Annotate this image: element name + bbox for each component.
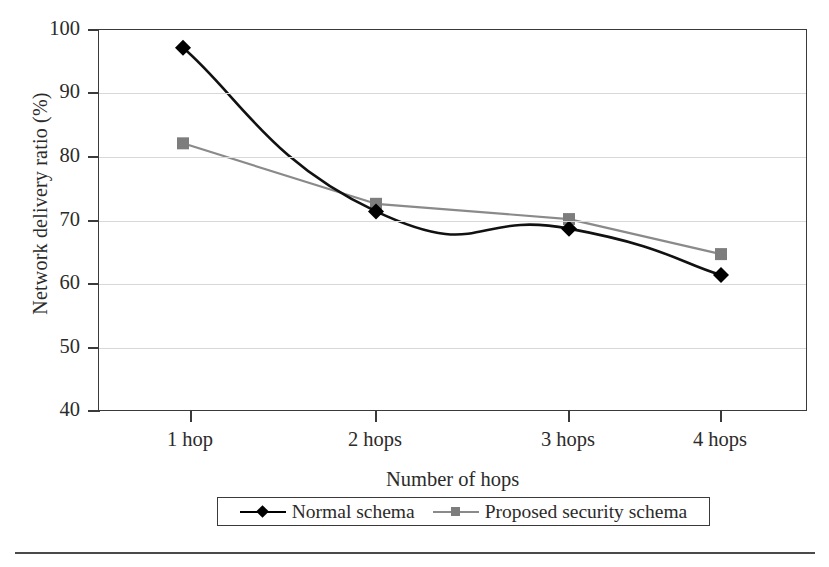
footer-rule bbox=[15, 552, 815, 554]
square-marker-icon bbox=[715, 248, 727, 260]
plot-area bbox=[98, 29, 807, 411]
x-tick-label-4-hops: 4 hops bbox=[660, 428, 780, 451]
y-tick-label-80: 80 bbox=[28, 145, 80, 166]
legend-label-normal-schema: Normal schema bbox=[292, 501, 415, 523]
x-tick-mark bbox=[568, 411, 570, 422]
y-tick-label-100: 100 bbox=[28, 18, 80, 39]
gridline-60 bbox=[99, 284, 806, 285]
y-tick-label-70: 70 bbox=[28, 209, 80, 230]
diamond-marker-icon bbox=[240, 505, 286, 519]
legend-item-proposed-security-schema: Proposed security schema bbox=[433, 501, 688, 523]
legend-label-proposed-security-schema: Proposed security schema bbox=[485, 501, 688, 523]
x-tick-mark bbox=[375, 411, 377, 422]
y-tick-label-90: 90 bbox=[28, 81, 80, 102]
y-tick-label-40: 40 bbox=[28, 399, 80, 420]
series-normal-line bbox=[183, 48, 721, 275]
y-tick-label-50: 50 bbox=[28, 336, 80, 357]
square-marker-icon bbox=[433, 505, 479, 519]
diamond-marker-icon bbox=[713, 267, 729, 283]
series-proposed-security-schema bbox=[177, 137, 727, 260]
square-glyph-icon bbox=[451, 507, 460, 516]
x-tick-label-1-hop: 1 hop bbox=[130, 428, 250, 451]
y-tick-label-60: 60 bbox=[28, 272, 80, 293]
gridline-50 bbox=[99, 348, 806, 349]
x-tick-mark bbox=[190, 411, 192, 422]
x-tick-label-3-hops: 3 hops bbox=[508, 428, 628, 451]
square-marker-icon bbox=[177, 137, 189, 149]
gridline-70 bbox=[99, 221, 806, 222]
x-tick-label-2-hops: 2 hops bbox=[315, 428, 435, 451]
chart-legend: Normal schema Proposed security schema bbox=[217, 497, 710, 526]
gridline-90 bbox=[99, 93, 806, 94]
legend-item-normal-schema: Normal schema bbox=[240, 501, 415, 523]
x-axis-title: Number of hops bbox=[98, 468, 807, 491]
line-chart-figure: Network delivery ratio (%) 100 90 80 70 … bbox=[0, 0, 829, 567]
gridline-80 bbox=[99, 157, 806, 158]
series-proposed-line bbox=[183, 143, 721, 254]
series-normal-schema bbox=[175, 40, 729, 283]
diamond-glyph-icon bbox=[256, 505, 269, 518]
x-tick-mark bbox=[720, 411, 722, 422]
